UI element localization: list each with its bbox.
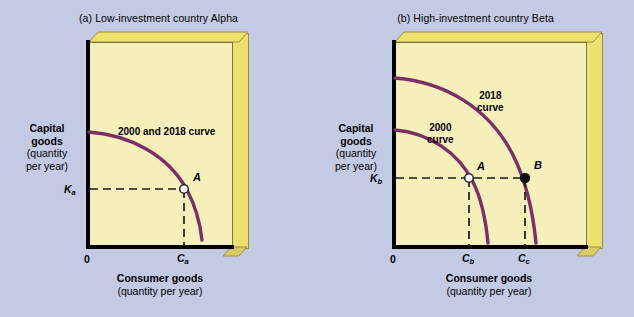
panel-a-point-A-label: A — [193, 171, 201, 183]
panel-b-y-tick-label: Kb — [370, 172, 382, 186]
panel-low-investment-alpha: (a) Low-investment country Alpha 2000 an… — [0, 0, 317, 317]
panel-b-point-A-marker — [465, 174, 474, 183]
panel-b-x-tick-label-cc: Cc — [518, 252, 530, 266]
panel-b-point-A-label: A — [477, 160, 485, 172]
panel-a-origin-label: 0 — [84, 253, 90, 265]
panel-high-investment-beta: (b) High-investment country Beta — [317, 0, 634, 317]
panel-a-x-tick-label: Ca — [177, 252, 189, 266]
panel-b-point-B-label: B — [534, 159, 542, 171]
panel-a-curve-label: 2000 and 2018 curve — [118, 126, 215, 138]
panel-a-point-A-marker — [180, 185, 189, 194]
panel-b-ppc-2000-curve — [395, 130, 488, 243]
panel-a-y-axis-title: Capital goods (quantity per year) — [12, 122, 82, 172]
panel-b-x-tick-label-cb: Cb — [462, 252, 474, 266]
panel-a-y-tick-label: Ka — [64, 183, 76, 197]
panel-b-point-B-marker — [520, 173, 529, 182]
panel-b-curve-label-2018: 2018 curve — [477, 90, 504, 114]
panel-b-y-axis-title: Capital goods (quantity per year) — [321, 122, 391, 172]
panel-b-ppc-2018-curve — [395, 78, 536, 243]
panel-b-curve-label-2000: 2000 curve — [427, 122, 454, 146]
figure-container: (a) Low-investment country Alpha 2000 an… — [0, 0, 634, 317]
panel-a-x-axis-title: Consumer goods (quantity per year) — [60, 272, 260, 298]
panel-b-x-axis-title: Consumer goods (quantity per year) — [389, 272, 589, 298]
panel-b-origin-label: 0 — [390, 253, 396, 265]
